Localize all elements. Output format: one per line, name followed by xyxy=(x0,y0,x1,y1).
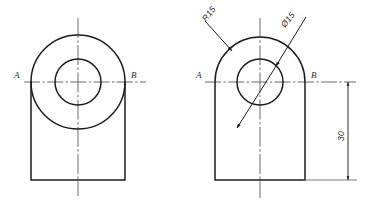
left-view: A B xyxy=(13,18,146,196)
diameter-callout-label: Ø15 xyxy=(278,10,297,30)
section-label-b-right: B xyxy=(311,70,317,80)
section-label-b-left: B xyxy=(131,70,137,80)
radius-leader-line xyxy=(205,21,232,51)
section-label-a-left: A xyxy=(13,70,20,80)
technical-drawing: A B A B R15 Ø15 30 xyxy=(0,0,368,212)
section-label-a-right: A xyxy=(195,70,202,80)
right-view: A B xyxy=(195,18,356,198)
drawing-canvas: A B A B R15 Ø15 30 xyxy=(0,0,368,212)
dimension-value-label: 30 xyxy=(336,131,346,141)
diameter-center-line xyxy=(237,63,278,128)
radius-callout-label: R15 xyxy=(200,4,218,23)
dimension-group: 30 xyxy=(303,82,357,180)
